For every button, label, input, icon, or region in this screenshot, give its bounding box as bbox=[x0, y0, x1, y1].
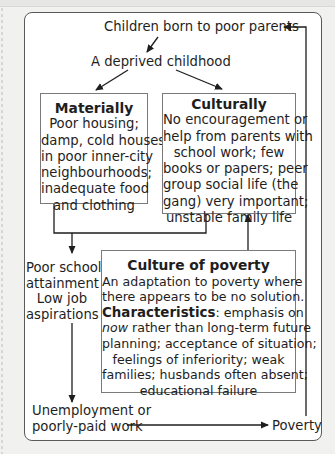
culture-line: planning; acceptance of situation; bbox=[102, 336, 295, 352]
node-poverty: Poverty bbox=[272, 418, 322, 435]
unemployment-line: poorly-paid work bbox=[32, 419, 151, 435]
culture-line: An adaptation to poverty where bbox=[102, 274, 295, 290]
culture-line: there appears to be no solution. bbox=[102, 289, 295, 305]
characteristics-label: Characteristics bbox=[102, 305, 216, 320]
culturally-line: unstable family life bbox=[163, 210, 295, 226]
culturally-line: gang) very important; bbox=[163, 194, 295, 210]
culturally-line: group social life (the bbox=[163, 177, 295, 193]
materially-line: damp, cold houses bbox=[41, 133, 147, 149]
culture-line: feelings of inferiority; weak bbox=[102, 352, 295, 368]
node-poor-school: Poor school attainment Low job aspiratio… bbox=[26, 260, 98, 322]
box-culturally: Culturally No encouragement or help from… bbox=[162, 93, 296, 214]
culture-characteristics-line: Characteristics: emphasis on bbox=[102, 305, 295, 321]
node-unemployment: Unemployment or poorly-paid work bbox=[32, 403, 151, 435]
now-word: now bbox=[102, 320, 128, 335]
box-culture-of-poverty: Culture of poverty An adaptation to pove… bbox=[101, 250, 296, 393]
materially-line: Poor housing; bbox=[41, 116, 147, 132]
node-children-born: Children born to poor parents bbox=[104, 19, 299, 36]
school-line: Low job bbox=[26, 291, 98, 307]
culture-line: families; husbands often absent; bbox=[102, 367, 295, 383]
materially-line: inadequate food bbox=[41, 181, 147, 197]
materially-line: in poor inner-city bbox=[41, 149, 147, 165]
unemployment-line: Unemployment or bbox=[32, 403, 151, 419]
culturally-line: school work; few bbox=[163, 145, 295, 161]
culturally-heading: Culturally bbox=[163, 96, 295, 112]
school-line: aspirations bbox=[26, 307, 98, 323]
school-line: attainment bbox=[26, 276, 98, 292]
materially-heading: Materially bbox=[41, 100, 147, 116]
culture-heading: Culture of poverty bbox=[102, 258, 295, 274]
culturally-line: No encouragement or bbox=[163, 112, 295, 128]
box-materially: Materially Poor housing; damp, cold hous… bbox=[40, 93, 148, 204]
culture-line: educational failure bbox=[102, 383, 295, 399]
arrow-deprived-to-culturally bbox=[176, 70, 222, 89]
node-deprived-childhood: A deprived childhood bbox=[91, 54, 231, 71]
culturally-line: help from parents with bbox=[163, 129, 295, 145]
materially-line: and clothing bbox=[41, 198, 147, 214]
culturally-line: books or papers; peer bbox=[163, 161, 295, 177]
characteristics-rest: : emphasis on bbox=[216, 305, 304, 320]
school-line: Poor school bbox=[26, 260, 98, 276]
culture-now-line: now rather than long-term future bbox=[102, 320, 295, 336]
arrow-children-to-deprived bbox=[147, 37, 158, 52]
materially-line: neighbourhoods; bbox=[41, 165, 147, 181]
arrow-deprived-to-materially bbox=[96, 70, 128, 90]
now-line-rest: rather than long-term future bbox=[128, 320, 311, 335]
